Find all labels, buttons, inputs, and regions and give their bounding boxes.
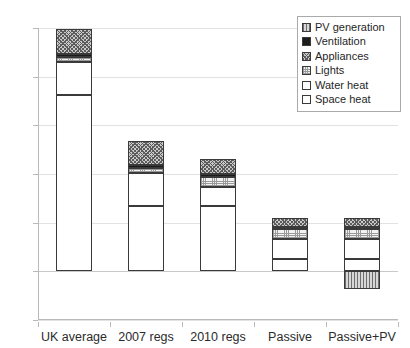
- bar-stack[interactable]: [128, 28, 164, 320]
- legend-label: PV generation: [315, 22, 385, 33]
- bar-segment-appl[interactable]: [56, 29, 92, 54]
- x-axis-label-4: Passive+PV: [319, 330, 405, 344]
- appliances-swatch: [302, 52, 311, 61]
- bar-segment-space[interactable]: [56, 95, 92, 271]
- bar-stack[interactable]: [56, 28, 92, 320]
- x-tick-mark: [254, 322, 255, 327]
- bar-segment-vent[interactable]: [344, 227, 380, 230]
- stacked-bar-chart: -50050100150200250 UK average2007 regs20…: [0, 0, 410, 348]
- lights-swatch: [302, 66, 311, 75]
- bar-segment-space[interactable]: [200, 206, 236, 271]
- bar-segment-lights[interactable]: [56, 57, 92, 62]
- legend-label: Appliances: [315, 51, 369, 62]
- legend-item[interactable]: Ventilation: [302, 35, 396, 50]
- legend-label: Water heat: [315, 80, 368, 91]
- bar-segment-water[interactable]: [56, 62, 92, 95]
- bar-segment-lights[interactable]: [344, 229, 380, 239]
- bar-group[interactable]: [110, 28, 182, 320]
- legend-label: Space heat: [315, 94, 371, 105]
- bar-segment-appl[interactable]: [128, 141, 164, 165]
- bar-segment-lights[interactable]: [200, 177, 236, 187]
- bar-segment-water[interactable]: [272, 239, 308, 258]
- legend-item[interactable]: Water heat: [302, 78, 396, 93]
- x-tick-mark: [182, 322, 183, 327]
- chart-legend: PV generationVentilationAppliancesLights…: [297, 16, 401, 112]
- legend-item[interactable]: Space heat: [302, 93, 396, 108]
- legend-item[interactable]: Lights: [302, 64, 396, 79]
- bar-segment-lights[interactable]: [128, 168, 164, 173]
- x-tick-mark: [398, 322, 399, 327]
- y-tick-mark: [33, 320, 38, 321]
- bar-group[interactable]: [38, 28, 110, 320]
- ventilation-swatch: [302, 37, 311, 46]
- bar-segment-space[interactable]: [272, 259, 308, 272]
- bar-segment-vent[interactable]: [56, 54, 92, 57]
- space-heat-swatch: [302, 95, 311, 104]
- bar-group[interactable]: [182, 28, 254, 320]
- legend-label: Ventilation: [315, 36, 366, 47]
- x-tick-mark: [38, 322, 39, 327]
- legend-item[interactable]: Appliances: [302, 49, 396, 64]
- bar-segment-vent[interactable]: [128, 165, 164, 168]
- bar-segment-space[interactable]: [344, 259, 380, 272]
- bar-segment-appl[interactable]: [344, 218, 380, 227]
- x-tick-mark: [326, 322, 327, 327]
- bar-segment-appl[interactable]: [200, 159, 236, 174]
- bar-segment-water[interactable]: [344, 239, 380, 258]
- bar-segment-water[interactable]: [128, 173, 164, 206]
- legend-item[interactable]: PV generation: [302, 20, 396, 35]
- bar-segment-water[interactable]: [200, 187, 236, 206]
- bar-segment-appl[interactable]: [272, 218, 308, 227]
- water-heat-swatch: [302, 81, 311, 90]
- bar-segment-lights[interactable]: [272, 229, 308, 239]
- x-tick-mark: [110, 322, 111, 327]
- x-axis-category-labels: UK average2007 regs2010 regsPassivePassi…: [38, 322, 398, 344]
- pv-swatch: [302, 23, 311, 32]
- bar-segment-pv[interactable]: [344, 271, 380, 289]
- gridline: [38, 320, 398, 321]
- bar-segment-vent[interactable]: [200, 174, 236, 177]
- bar-stack[interactable]: [200, 28, 236, 320]
- bar-segment-vent[interactable]: [272, 227, 308, 230]
- bar-segment-space[interactable]: [128, 206, 164, 271]
- legend-label: Lights: [315, 65, 344, 76]
